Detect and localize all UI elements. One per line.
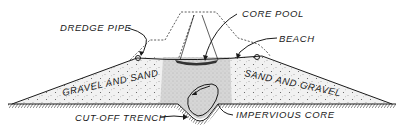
dam-cross-section-diagram: DREDGE PIPE CORE POOL BEACH GRAVEL AND S… xyxy=(0,0,400,136)
ground-hatching-right xyxy=(220,104,396,108)
label-core-pool: CORE POOL xyxy=(242,8,304,19)
label-dredge-pipe: DREDGE PIPE xyxy=(60,22,132,33)
core-limit-right-line xyxy=(202,15,218,60)
label-impervious-core: IMPERVIOUS CORE xyxy=(236,109,335,120)
label-cut-off-trench: CUT-OFF TRENCH xyxy=(75,112,166,123)
ground-hatching-left xyxy=(8,104,176,108)
final-section-dashed-outline xyxy=(130,12,270,60)
core-limit-left-line xyxy=(180,15,194,60)
label-beach: BEACH xyxy=(279,33,315,44)
